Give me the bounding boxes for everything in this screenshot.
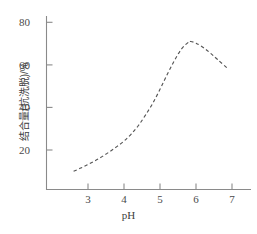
y-axis-ticks (47, 22, 53, 150)
x-axis-title: pH (0, 209, 257, 221)
x-tick-label-5: 5 (152, 194, 168, 205)
x-tick-label-6: 6 (188, 194, 204, 205)
y-axis-title: 结合量(抗洗脱)/% (19, 32, 30, 172)
x-tick-label-4: 4 (116, 194, 132, 205)
y-tick-label-80: 80 (8, 17, 30, 28)
x-tick-label-7: 7 (224, 194, 240, 205)
data-series-curve (74, 41, 229, 171)
x-axis-ticks (88, 184, 232, 190)
x-tick-label-3: 3 (80, 194, 96, 205)
chart-figure: 80 60 40 20 3 4 5 6 7 pH 结合量(抗洗脱)/% (0, 0, 257, 234)
